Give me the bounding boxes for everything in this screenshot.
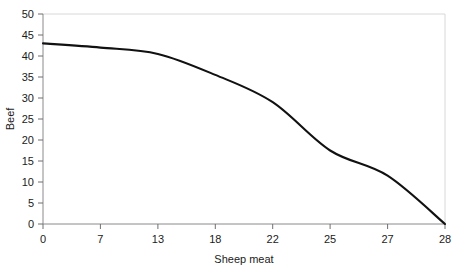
y-tick-label: 40 [22,50,34,62]
x-axis-title: Sheep meat [214,253,273,265]
y-tick-label: 30 [22,92,34,104]
y-tick-label: 10 [22,176,34,188]
x-tick-label: 22 [267,233,279,245]
series-line-beef [43,43,445,224]
x-tick-label: 18 [209,233,221,245]
y-axis-ticks [38,14,43,224]
x-tick-label: 27 [381,233,393,245]
chart-container: 0 5 10 15 20 25 30 35 40 45 50 0 7 [0,0,466,274]
x-tick-label: 0 [40,233,46,245]
production-possibility-curve-chart: 0 5 10 15 20 25 30 35 40 45 50 0 7 [0,0,466,274]
y-tick-label: 15 [22,155,34,167]
x-tick-label: 28 [439,233,451,245]
y-tick-label: 50 [22,8,34,20]
y-tick-label: 20 [22,134,34,146]
y-tick-label: 35 [22,71,34,83]
plot-frame [43,14,445,224]
y-tick-label: 5 [28,197,34,209]
x-tick-label: 25 [324,233,336,245]
y-tick-label: 0 [28,218,34,230]
y-axis-title: Beef [4,107,16,131]
x-axis-tick-labels: 0 7 13 18 22 25 27 28 [40,233,451,245]
x-tick-label: 7 [97,233,103,245]
y-tick-label: 45 [22,29,34,41]
x-tick-label: 13 [152,233,164,245]
y-axis-tick-labels: 0 5 10 15 20 25 30 35 40 45 50 [22,8,34,230]
x-axis-ticks [43,224,445,229]
y-tick-label: 25 [22,113,34,125]
